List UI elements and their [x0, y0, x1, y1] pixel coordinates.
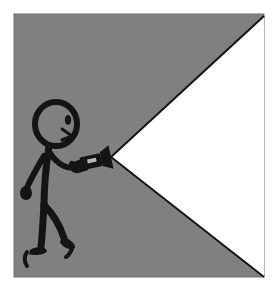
back-foot-heel [25, 252, 27, 266]
eye [65, 115, 71, 125]
stick-figure-flashlight-illustration [0, 0, 275, 288]
illustration-canvas [0, 0, 275, 288]
back-leg [41, 204, 44, 247]
back-hand [20, 186, 32, 200]
